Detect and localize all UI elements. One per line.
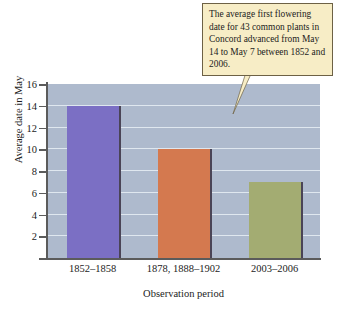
bar	[67, 106, 121, 258]
y-axis-tick-label: 2	[3, 231, 37, 242]
bar	[158, 149, 212, 258]
flowering-callout: The average first flowering date for 43 …	[202, 3, 333, 76]
x-axis-line	[39, 258, 321, 260]
y-axis-tick-label: 4	[3, 209, 37, 220]
y-axis-title: Average date in May	[13, 55, 24, 185]
y-axis-tick	[39, 171, 46, 173]
plot-area	[47, 84, 320, 258]
y-axis-tick-label: 6	[3, 187, 37, 198]
y-axis-tick	[39, 128, 46, 130]
bar	[249, 182, 303, 258]
x-axis-tick-label: 2003–2006	[251, 263, 298, 274]
x-axis-tick-label: 1852–1858	[69, 263, 116, 274]
y-axis-tick	[39, 106, 46, 108]
y-axis-tick	[39, 215, 46, 217]
y-axis-tick	[39, 236, 46, 238]
y-axis-tick	[39, 193, 46, 195]
x-axis-tick-label: 1878, 1888–1902	[147, 263, 221, 274]
x-axis-tick-labels: 1852–18581878, 1888–19022003–2006	[47, 263, 320, 279]
x-axis-title: Observation period	[47, 288, 320, 299]
y-axis-line	[46, 82, 48, 259]
y-axis-tick	[39, 84, 46, 86]
y-axis-tick	[39, 149, 46, 151]
flowering-date-bar-chart: 246810121416 Average date in May 1852–18…	[0, 0, 340, 314]
